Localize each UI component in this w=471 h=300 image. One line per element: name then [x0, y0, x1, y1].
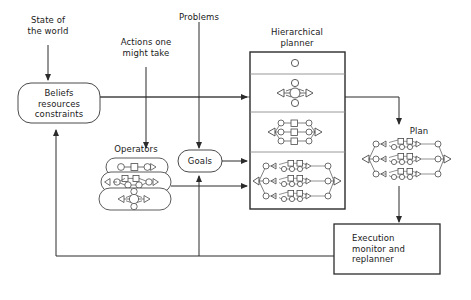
diagram-root: State of the world Actions one might tak… [0, 0, 471, 300]
plan-row-1 [373, 139, 441, 150]
edge-planner-to-plan [345, 97, 399, 124]
operators-stack[interactable] [99, 158, 171, 210]
plan-row-3 [373, 169, 441, 180]
label-plan: Plan [410, 126, 428, 137]
label-goals: Goals [188, 156, 212, 167]
label-beliefs: Beliefs resources constraints [35, 88, 83, 120]
label-state-of-world: State of the world [28, 15, 69, 36]
hierarchical-planner-box[interactable] [250, 52, 345, 209]
plan-row-2 [373, 154, 441, 165]
label-problems: Problems [179, 12, 219, 23]
plan-network[interactable] [362, 139, 451, 180]
operator-card-3 [99, 188, 171, 210]
label-actions: Actions one might take [121, 37, 172, 58]
label-hierarchical-planner: Hierarchical planner [271, 27, 323, 48]
planner-level-1 [291, 59, 298, 66]
label-execution-monitor: Execution monitor and replanner [352, 233, 405, 265]
label-operators: Operators [114, 144, 157, 155]
